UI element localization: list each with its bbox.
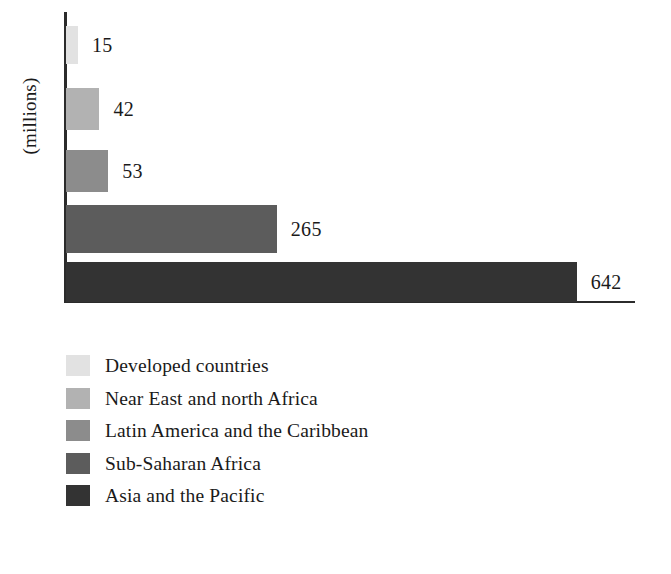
plot-area: (millions) 154253265642: [0, 0, 671, 330]
bar: [66, 262, 577, 302]
legend-swatch-icon: [66, 420, 90, 441]
bar-value-label: 642: [591, 271, 622, 294]
bar-value-label: 53: [122, 160, 143, 183]
legend-item-label: Developed countries: [105, 352, 269, 379]
bar: [66, 88, 99, 130]
legend-swatch-icon: [66, 453, 90, 474]
bar: [66, 150, 108, 192]
bar-chart-figure: (millions) 154253265642 Developed countr…: [0, 0, 671, 574]
legend-item-label: Asia and the Pacific: [105, 482, 265, 509]
legend-item-label: Sub-Saharan Africa: [105, 450, 261, 477]
legend-swatch-icon: [66, 485, 90, 506]
bar: [66, 26, 78, 64]
legend-item[interactable]: Sub-Saharan Africa: [66, 450, 626, 483]
legend-item[interactable]: Developed countries: [66, 352, 626, 385]
bar: [66, 205, 277, 253]
bar-series: 154253265642: [0, 0, 671, 330]
bar-value-label: 265: [291, 218, 322, 241]
legend-item[interactable]: Near East and north Africa: [66, 385, 626, 418]
legend-item[interactable]: Asia and the Pacific: [66, 482, 626, 515]
legend-swatch-icon: [66, 355, 90, 376]
bar-value-label: 15: [92, 34, 113, 57]
chart-legend: Developed countriesNear East and north A…: [66, 352, 626, 515]
legend-item-label: Near East and north Africa: [105, 385, 318, 412]
legend-item[interactable]: Latin America and the Caribbean: [66, 417, 626, 450]
legend-item-label: Latin America and the Caribbean: [105, 417, 368, 444]
legend-swatch-icon: [66, 388, 90, 409]
bar-value-label: 42: [113, 98, 134, 121]
